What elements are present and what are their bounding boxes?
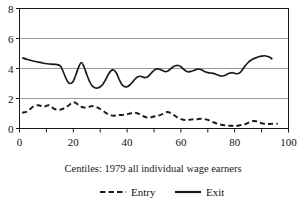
y-tick-label-6: 6 <box>8 33 14 45</box>
x-tick-label-100: 100 <box>280 136 297 148</box>
x-tick-label-0: 0 <box>17 136 23 148</box>
y-tick-label-0: 0 <box>8 123 14 135</box>
x-tick-label-40: 40 <box>122 136 134 148</box>
x-tick-label-80: 80 <box>229 136 241 148</box>
x-tick-label-60: 60 <box>175 136 187 148</box>
y-tick-label-4: 4 <box>8 63 14 75</box>
x-axis-label: Centiles: 1979 all individual wage earne… <box>65 163 242 174</box>
legend-label-entry: Entry <box>131 186 156 198</box>
x-tick-label-20: 20 <box>68 136 80 148</box>
wage-earners-line-chart: 02468 020406080100 Centiles: 1979 all in… <box>0 0 307 203</box>
chart-figure: 02468 020406080100 Centiles: 1979 all in… <box>0 0 307 203</box>
legend-label-exit: Exit <box>206 186 224 198</box>
y-tick-label-8: 8 <box>8 3 14 15</box>
y-tick-label-2: 2 <box>8 93 14 105</box>
